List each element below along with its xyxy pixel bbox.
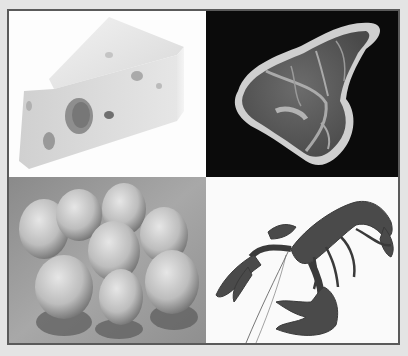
steak-icon xyxy=(206,11,398,177)
lobster-icon xyxy=(206,177,398,343)
photo-collage-frame: Swiss cheese wedge xyxy=(7,9,400,345)
lobster-photo: Lobster xyxy=(206,177,398,343)
eggs-icon xyxy=(9,177,206,343)
steak-photo: Raw T-bone steak xyxy=(206,11,398,177)
cheese-icon xyxy=(9,11,206,177)
cheese-photo: Swiss cheese wedge xyxy=(9,11,206,177)
eggs-photo: Group of eggs xyxy=(9,177,206,343)
